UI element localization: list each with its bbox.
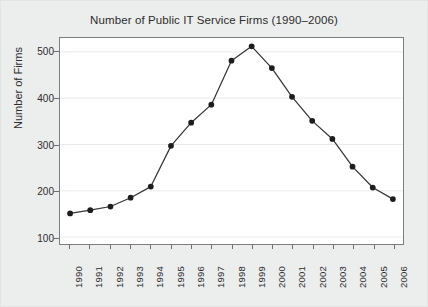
y-tick-label-500: 500 (37, 46, 54, 57)
series-line-number-of-firms (70, 46, 393, 213)
x-tick-label-2006: 2006 (398, 266, 409, 288)
x-tick-label-2005: 2005 (378, 266, 389, 288)
x-tick-mark-2001 (292, 245, 293, 249)
chart-figure: Number of Public IT Service Firms (1990–… (0, 0, 428, 307)
y-tick-label-400: 400 (37, 92, 54, 103)
x-tick-label-1999: 1999 (256, 266, 267, 288)
data-point-1999 (249, 43, 255, 49)
x-tick-mark-2005 (374, 245, 375, 249)
x-axis-tick-labels: 1990199119921993199419951996199719981999… (59, 250, 404, 294)
x-tick-label-1992: 1992 (114, 266, 125, 288)
x-tick-label-2003: 2003 (337, 266, 348, 288)
x-tick-label-2002: 2002 (317, 266, 328, 288)
x-tick-mark-1990 (69, 245, 70, 249)
x-tick-mark-1997 (211, 245, 212, 249)
x-tick-label-1991: 1991 (93, 266, 104, 288)
data-point-1994 (148, 184, 154, 190)
data-point-2001 (289, 94, 295, 100)
x-tick-mark-1994 (150, 245, 151, 249)
x-tick-mark-1993 (130, 245, 131, 249)
plot-area (59, 37, 404, 245)
x-tick-label-1997: 1997 (215, 266, 226, 288)
x-tick-label-1996: 1996 (195, 266, 206, 288)
x-tick-mark-1998 (232, 245, 233, 249)
data-point-2003 (329, 136, 335, 142)
data-point-2004 (350, 164, 356, 170)
y-tick-label-200: 200 (37, 186, 54, 197)
x-tick-mark-2003 (333, 245, 334, 249)
y-tick-label-300: 300 (37, 139, 54, 150)
y-axis-label: Number of Firms (12, 23, 24, 153)
data-point-1993 (128, 195, 134, 201)
x-tick-label-1990: 1990 (73, 266, 84, 288)
x-tick-mark-1995 (171, 245, 172, 249)
data-point-1995 (168, 143, 174, 149)
x-tick-label-2001: 2001 (296, 266, 307, 288)
x-tick-mark-1996 (191, 245, 192, 249)
data-point-2002 (309, 118, 315, 124)
data-point-1998 (229, 58, 235, 64)
y-tick-label-100: 100 (37, 232, 54, 243)
x-tick-mark-1991 (89, 245, 90, 249)
x-tick-label-1994: 1994 (154, 266, 165, 288)
data-point-1991 (87, 207, 93, 213)
x-tick-mark-1992 (110, 245, 111, 249)
data-point-2006 (390, 196, 396, 202)
x-tick-label-1998: 1998 (236, 266, 247, 288)
x-tick-label-1995: 1995 (175, 266, 186, 288)
data-point-1990 (67, 211, 73, 217)
y-axis-tick-labels: 100200300400500 (24, 37, 54, 245)
data-point-2005 (370, 185, 376, 191)
x-tick-mark-2004 (353, 245, 354, 249)
data-point-1992 (108, 204, 114, 210)
gridlines (60, 52, 403, 237)
line-chart-svg (60, 38, 403, 244)
data-point-1997 (208, 102, 214, 108)
x-tick-label-1993: 1993 (134, 266, 145, 288)
data-point-2000 (269, 65, 275, 71)
data-point-1996 (188, 120, 194, 126)
x-tick-label-2000: 2000 (276, 266, 287, 288)
x-tick-mark-2000 (272, 245, 273, 249)
x-tick-mark-2002 (313, 245, 314, 249)
x-tick-label-2004: 2004 (357, 266, 368, 288)
x-tick-mark-2006 (394, 245, 395, 249)
chart-title: Number of Public IT Service Firms (1990–… (0, 14, 428, 26)
x-tick-mark-1999 (252, 245, 253, 249)
